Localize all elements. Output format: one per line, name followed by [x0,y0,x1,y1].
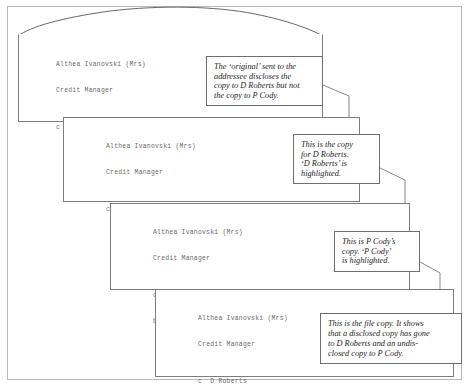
callout-line: closed copy to P Cody. [328,349,455,359]
copy-line: c D Roberts [198,367,288,387]
callout-line: the copy to P Cody. [214,91,316,101]
signature-name: Althea Ivanovski (Mrs) [153,229,243,238]
callout-line: This is the file copy. It shows [328,319,455,329]
callout-line: copy. ‘P Cody’ [342,247,413,257]
signature-title: Credit Manager [153,255,243,264]
callout-line: addressee discloses the [214,72,316,82]
callout-line: that a disclosed copy has gone [328,329,455,339]
callout-line: This is the copy [301,140,373,150]
callout-line: to D Roberts and an undis- [328,339,455,349]
signature-name: Althea Ivanovski (Mrs) [198,315,288,324]
callout-line: highlighted. [301,169,373,179]
signature-title: Credit Manager [198,341,288,350]
callout-line: The ‘original’ sent to the [214,62,316,72]
callout-line: This is P Cody’s [342,237,413,247]
callout-line: is highlighted. [342,256,413,266]
callout-d-roberts-copy: This is the copy for D Roberts. ‘D Rober… [293,134,380,184]
callout-original: The ‘original’ sent to the addressee dis… [206,56,323,106]
figure-root: Althea Ivanovski (Mrs) Credit Manager c … [0,0,470,388]
signature-name: Althea Ivanovski (Mrs) [106,143,196,152]
signature-title: Credit Manager [56,87,146,96]
callout-line: for D Roberts. [301,150,373,160]
callout-line: ‘D Roberts’ is [301,159,373,169]
signature-title: Credit Manager [106,169,196,178]
callout-file-copy: This is the file copy. It shows that a d… [320,313,462,364]
callout-line: copy to D Roberts but not [214,81,316,91]
callout-p-cody-copy: This is P Cody’s copy. ‘P Cody’ is highl… [334,231,420,272]
signature-name: Althea Ivanovski (Mrs) [56,61,146,70]
